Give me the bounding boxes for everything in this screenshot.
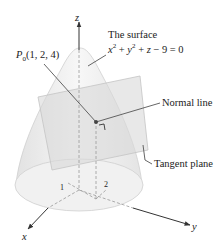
tangent-plane-label: Tangent plane xyxy=(154,159,213,170)
y-axis-label: y xyxy=(192,222,197,233)
point-label: P0(1, 2, 4) xyxy=(16,50,59,63)
x-axis xyxy=(28,208,48,229)
eq-plus2: + xyxy=(136,44,147,55)
surface-equation: x2 + y2 + z − 9 = 0 xyxy=(108,43,184,55)
point-p0 xyxy=(94,120,98,124)
z-axis-label: z xyxy=(75,13,79,24)
paraboloid-diagram: z x y 1 2 P0(1, 2, 4) The surface x2 + y… xyxy=(0,0,224,249)
x-tick-label: 1 xyxy=(60,184,64,192)
y-tick-label: 2 xyxy=(104,181,108,189)
normal-line-label: Normal line xyxy=(162,98,212,109)
eq-rest: − 9 = 0 xyxy=(151,44,184,55)
point-coords: (1, 2, 4) xyxy=(26,49,59,60)
eq-plus1: + xyxy=(116,44,127,55)
x-axis-label: x xyxy=(22,232,27,243)
y-axis xyxy=(133,208,190,225)
surface-label-title: The surface xyxy=(108,30,157,41)
